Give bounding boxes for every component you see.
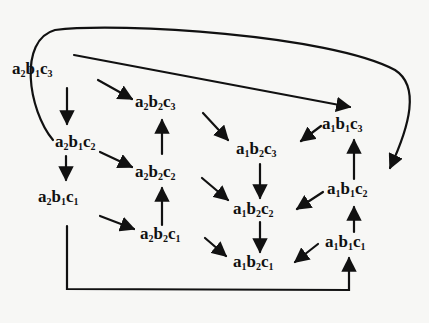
edge-a2b1c1-a2b2c1 <box>100 216 134 229</box>
edge-a2b1c1-a1b1c1-bracket <box>67 226 349 290</box>
node-a1b1c1: a1b1c1 <box>325 233 366 252</box>
node-a1b1c2: a1b1c2 <box>327 180 368 199</box>
edge-a2b1c3-a1b1c3 <box>74 55 350 107</box>
node-a1b1c3: a1b1c3 <box>322 115 363 134</box>
edge-a2b2c2-a1b2c2 <box>202 178 228 200</box>
node-a2b1c3: a2b1c3 <box>12 60 53 79</box>
node-a2b2c1: a2b2c1 <box>140 225 181 244</box>
node-a1b2c2: a1b2c2 <box>233 200 274 219</box>
diagram-canvas <box>0 0 429 323</box>
node-a1b2c3: a1b2c3 <box>236 140 277 159</box>
node-a2b2c3: a2b2c3 <box>135 93 176 112</box>
edge-a2b1c3-a2b2c3 <box>98 80 132 99</box>
node-a2b1c1: a2b1c1 <box>38 188 79 207</box>
edge-a1b1c2-a1b2c2 <box>297 192 323 209</box>
node-a2b1c2: a2b1c2 <box>55 133 96 152</box>
node-a2b2c2: a2b2c2 <box>135 163 176 182</box>
node-a1b2c1: a1b2c1 <box>233 253 274 272</box>
edge-a2b2c1-a1b2c1 <box>205 238 226 256</box>
edge-a1b1c1-a1b2c1 <box>295 244 318 262</box>
edge-a2b2c3-a1b2c3 <box>203 113 228 140</box>
edge-a1b1c3-a1b2c3 <box>301 126 321 141</box>
edge-a2b1c2-a2b2c2 <box>100 152 132 167</box>
